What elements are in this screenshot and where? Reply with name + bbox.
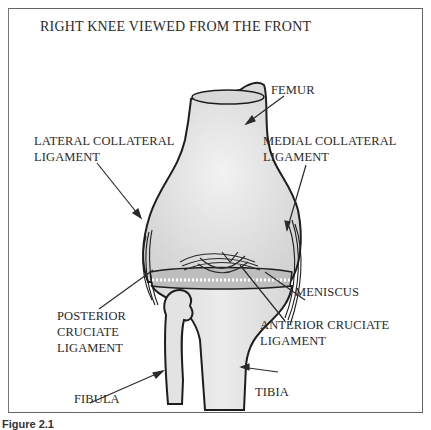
- label-anterior-cruciate-line1: ANTERIOR CRUCIATE: [260, 318, 389, 333]
- label-medial-collateral-line2: LIGAMENT: [263, 150, 329, 165]
- figure-caption: Figure 2.1: [2, 418, 54, 430]
- label-posterior-cruciate-line3: LIGAMENT: [57, 341, 123, 356]
- label-femur: FEMUR: [271, 83, 315, 98]
- label-tibia: TIBIA: [255, 385, 289, 400]
- label-lateral-collateral-line1: LATERAL COLLATERAL: [34, 134, 175, 149]
- label-lateral-collateral-line2: LIGAMENT: [34, 150, 100, 165]
- label-fibula: FIBULA: [74, 392, 120, 407]
- meniscus-shape: [150, 268, 292, 290]
- label-anterior-cruciate-line2: LIGAMENT: [260, 334, 326, 349]
- fibula-bone: [164, 290, 192, 404]
- label-medial-collateral-line1: MEDIAL COLLATERAL: [263, 134, 397, 149]
- label-posterior-cruciate-line1: POSTERIOR: [57, 309, 126, 324]
- label-posterior-cruciate-line2: CRUCIATE: [57, 325, 119, 340]
- label-meniscus: MENISCUS: [295, 285, 359, 300]
